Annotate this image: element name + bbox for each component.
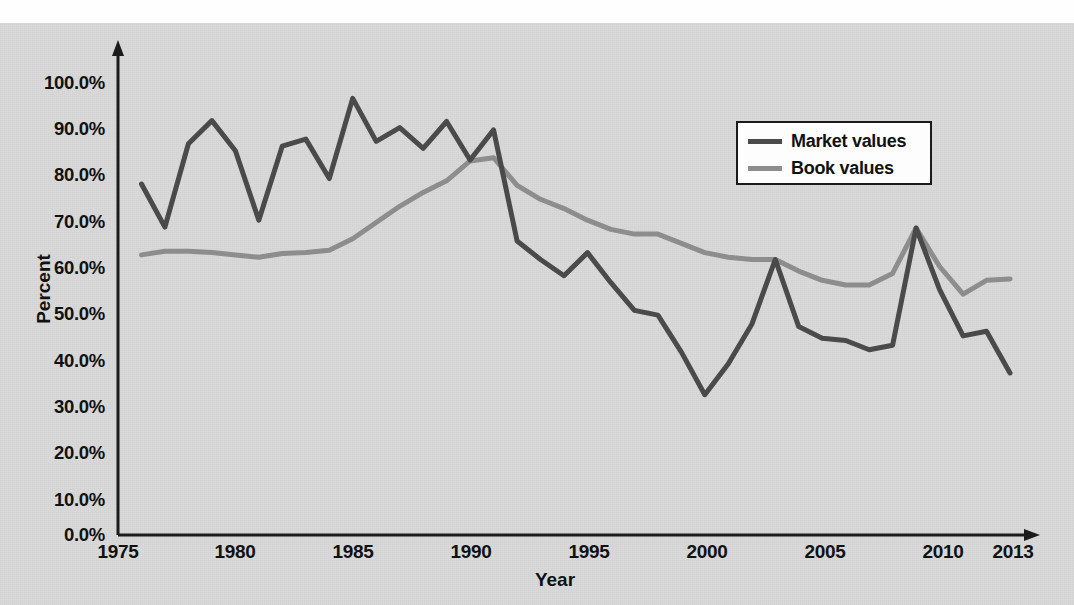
x-tick-label: 2000	[662, 541, 752, 563]
x-tick-label: 1990	[426, 541, 516, 563]
legend-swatch-book-values	[748, 166, 782, 171]
y-tick-label: 40.0%	[0, 350, 105, 372]
legend-item-book-values[interactable]: Book values	[748, 155, 930, 182]
y-tick-label: 10.0%	[0, 489, 105, 511]
x-axis-arrowhead	[1024, 529, 1040, 541]
line-chart	[0, 0, 1074, 605]
y-tick-label: 90.0%	[0, 118, 105, 140]
x-tick-label: 1985	[308, 541, 398, 563]
chart-legend: Market values Book values	[736, 121, 932, 185]
y-axis-arrowhead	[112, 40, 124, 56]
legend-label-book-values: Book values	[791, 158, 894, 179]
x-tick-label: 1975	[73, 541, 163, 563]
x-tick-label: 1995	[544, 541, 634, 563]
legend-swatch-market-values	[748, 139, 782, 144]
legend-item-market-values[interactable]: Market values	[748, 128, 930, 155]
x-tick-label: 1980	[190, 541, 280, 563]
legend-label-market-values: Market values	[791, 131, 906, 152]
x-tick-label: 2013	[968, 541, 1058, 563]
y-tick-label: 80.0%	[0, 164, 105, 186]
x-tick-label: 2005	[780, 541, 870, 563]
x-axis-title: Year	[505, 569, 605, 591]
y-axis-title: Percent	[33, 229, 55, 349]
y-tick-label: 100.0%	[0, 72, 105, 94]
y-tick-label: 20.0%	[0, 442, 105, 464]
figure-canvas: 100.0% 90.0% 80.0% 70.0% 60.0% 50.0% 40.…	[0, 0, 1074, 605]
y-tick-label: 30.0%	[0, 396, 105, 418]
